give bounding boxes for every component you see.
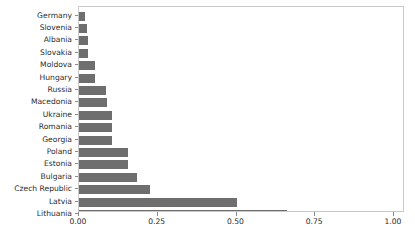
- bar: [79, 210, 287, 212]
- bar: [79, 98, 107, 107]
- bar-row: [79, 61, 404, 70]
- x-axis-tick: [393, 212, 394, 216]
- bar: [79, 198, 237, 207]
- y-axis-label: Slovakia: [0, 48, 72, 57]
- x-axis-tick: [157, 212, 158, 216]
- bar-row: [79, 12, 404, 21]
- y-axis-label: Slovenia: [0, 23, 72, 32]
- bar: [79, 136, 112, 145]
- bar: [79, 24, 87, 33]
- bar-row: [79, 198, 404, 207]
- y-axis-label: Romania: [0, 122, 72, 131]
- x-axis-tick: [314, 212, 315, 216]
- y-axis-label: Hungary: [0, 73, 72, 82]
- y-axis-label: Bulgaria: [0, 172, 72, 181]
- y-axis-label: Moldova: [0, 60, 72, 69]
- x-axis-tick-label: 0.00: [58, 217, 98, 227]
- bar: [79, 12, 85, 21]
- plot-area: [78, 6, 404, 212]
- bar-row: [79, 74, 404, 83]
- y-axis-label: Ukraine: [0, 110, 72, 119]
- x-axis-tick-label: 0.25: [137, 217, 177, 227]
- bar: [79, 49, 88, 58]
- bar: [79, 61, 95, 70]
- y-axis-label: Georgia: [0, 135, 72, 144]
- bar-row: [79, 36, 404, 45]
- bar-row: [79, 98, 404, 107]
- y-axis-label: Germany: [0, 11, 72, 20]
- x-axis-tick: [78, 212, 79, 216]
- bar-row: [79, 210, 404, 212]
- bar-row: [79, 49, 404, 58]
- bar: [79, 173, 137, 182]
- x-axis-tick: [236, 212, 237, 216]
- bar-row: [79, 123, 404, 132]
- bar-row: [79, 24, 404, 33]
- bar: [79, 74, 95, 83]
- bar: [79, 86, 106, 95]
- y-axis-label: Czech Republic: [0, 184, 72, 193]
- y-axis-label: Macedonia: [0, 97, 72, 106]
- bar: [79, 123, 112, 132]
- bar-row: [79, 148, 404, 157]
- bar-row: [79, 160, 404, 169]
- bar: [79, 36, 88, 45]
- bar-row: [79, 173, 404, 182]
- y-axis-label: Russia: [0, 85, 72, 94]
- bar: [79, 185, 150, 194]
- bar: [79, 148, 128, 157]
- bar: [79, 111, 112, 120]
- bar-row: [79, 86, 404, 95]
- bar-row: [79, 185, 404, 194]
- x-axis-tick-label: 1.00: [373, 217, 413, 227]
- x-axis-tick-label: 0.75: [294, 217, 334, 227]
- bar-row: [79, 111, 404, 120]
- bar-row: [79, 136, 404, 145]
- y-axis-label: Estonia: [0, 159, 72, 168]
- x-axis-tick-label: 0.50: [216, 217, 256, 227]
- y-axis-label: Poland: [0, 147, 72, 156]
- bar-chart: GermanySloveniaAlbaniaSlovakiaMoldovaHun…: [0, 0, 415, 238]
- y-axis-label: Albania: [0, 35, 72, 44]
- bar: [79, 160, 128, 169]
- y-axis-label: Latvia: [0, 197, 72, 206]
